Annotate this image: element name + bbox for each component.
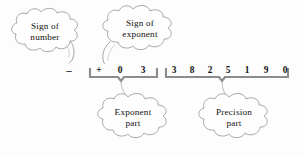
callout-sign-of-exponent [103,5,171,64]
sign-of-exponent-tail-inner [108,45,115,60]
callout-precision-part [199,93,267,137]
precision-digit-6: 0 [279,64,291,76]
diagram-canvas: Sign of number Sign of exponent Exponent… [0,0,305,157]
precision-part-bubble [199,93,267,137]
diagram-vector-layer [0,0,305,157]
number-sign-glyph: – [63,64,75,76]
callout-exponent-part [98,93,166,137]
precision-digit-3: 5 [222,64,234,76]
sign-of-exponent-bubble [103,5,171,49]
precision-digit-5: 9 [260,64,272,76]
exponent-digit-2: 3 [137,64,149,76]
precision-digit-4: 1 [241,64,253,76]
callout-sign-of-number [12,8,78,63]
sign-of-number-bubble [12,8,78,51]
precision-digit-1: 8 [186,64,198,76]
exponent-part-bubble [98,93,166,137]
precision-digit-2: 2 [204,64,216,76]
precision-digit-0: 3 [168,64,180,76]
exponent-digit-1: 0 [114,64,126,76]
exponent-digit-0: + [93,64,105,76]
